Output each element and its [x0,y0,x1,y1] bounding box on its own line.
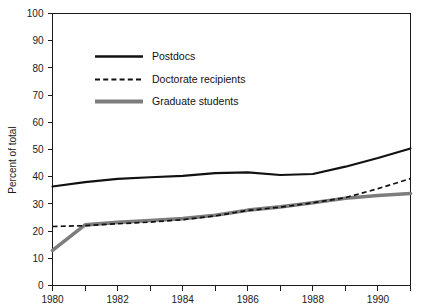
y-tick-label: 90 [32,35,44,46]
y-tick-label: 30 [32,199,44,210]
y-tick-label: 0 [38,280,44,291]
y-tick-label: 50 [32,144,44,155]
chart-container: 0102030405060708090100 19801982198419861… [0,0,424,308]
y-tick-label: 100 [27,8,44,19]
y-tick-label: 10 [32,253,44,264]
legend-label-graduate-students: Graduate students [152,95,238,107]
y-tick-label: 70 [32,90,44,101]
y-tick-label: 40 [32,171,44,182]
legend-label-postdocs: Postdocs [152,50,195,62]
line-chart: 0102030405060708090100 19801982198419861… [0,0,424,308]
legend-label-doctorate-recipients: Doctorate recipients [152,73,245,85]
y-axis-title: Percent of total [7,126,18,193]
y-tick-label: 20 [32,226,44,237]
x-tick-label: 1988 [302,294,325,305]
x-tick-label: 1986 [237,294,260,305]
y-tick-label: 80 [32,63,44,74]
x-tick-label: 1982 [106,294,129,305]
x-tick-label: 1990 [367,294,390,305]
y-tick-label: 60 [32,117,44,128]
chart-background [0,0,424,308]
x-tick-label: 1984 [172,294,195,305]
x-tick-label: 1980 [41,294,64,305]
